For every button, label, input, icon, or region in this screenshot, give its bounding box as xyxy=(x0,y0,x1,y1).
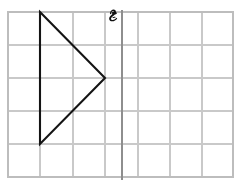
grid-horizontal-lines xyxy=(8,12,233,177)
figure-canvas xyxy=(0,0,240,184)
figure-svg xyxy=(0,0,240,184)
grid-vertical-lines xyxy=(8,12,233,177)
grid-border xyxy=(8,12,233,177)
